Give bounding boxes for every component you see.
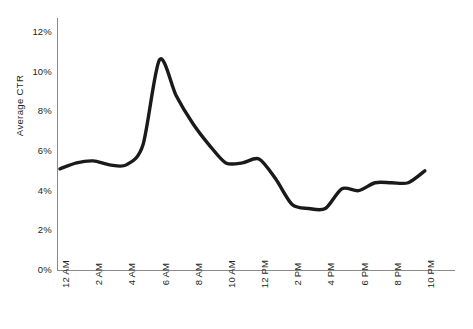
plot-area [57,18,455,270]
x-tick-label: 10 AM [226,260,237,288]
x-tick-label: 12 AM [60,260,71,288]
x-axis-tick-labels: 12 AM2 AM4 AM6 AM8 AM10 AM12 PM2 PM4 PM6… [57,272,455,329]
y-tick-label: 8% [8,105,52,116]
y-tick-label: 6% [8,145,52,156]
x-tick-label: 6 AM [160,263,171,285]
x-tick-label: 10 PM [425,260,436,288]
y-tick-label: 10% [8,66,52,77]
x-tick-label: 8 PM [392,263,403,286]
y-axis-tick-labels: 12%10%8%6%4%2%0% [0,0,52,329]
y-tick-label: 12% [8,26,52,37]
x-tick-label: 4 AM [126,263,137,285]
y-tick-label: 0% [8,264,52,275]
x-tick-label: 8 AM [193,263,204,285]
x-tick-label: 2 PM [292,263,303,286]
average-ctr-line-series [57,18,455,270]
ctr-by-hour-line-chart: Average CTR 12%10%8%6%4%2%0% 12 AM2 AM4 … [0,0,473,329]
x-tick-label: 12 PM [259,260,270,288]
x-tick-label: 2 AM [93,263,104,285]
x-tick-label: 6 PM [359,263,370,286]
y-tick-label: 2% [8,224,52,235]
x-tick-label: 4 PM [325,263,336,286]
y-tick-label: 4% [8,185,52,196]
